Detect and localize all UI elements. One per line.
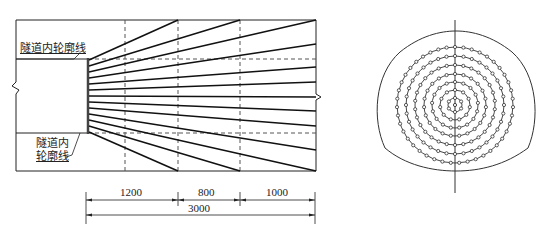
bolt-point <box>485 141 488 144</box>
bolt-point <box>470 57 473 60</box>
bolt-point <box>502 95 505 98</box>
bolt-point <box>396 97 399 100</box>
bolt-rings <box>395 45 514 164</box>
bolt-point <box>441 160 444 163</box>
bolt-point <box>415 60 418 63</box>
bolt-point <box>437 77 440 80</box>
bolt-point <box>466 132 469 135</box>
bolt-point <box>426 89 429 92</box>
bolt-point <box>429 61 432 64</box>
bolt-point <box>483 130 486 133</box>
bolt-point <box>407 87 410 90</box>
bolt-point <box>458 134 461 137</box>
bolt-point <box>470 77 473 80</box>
bolt-point <box>462 82 465 85</box>
bolt-point <box>478 146 481 149</box>
bolt-point <box>488 123 491 126</box>
bolt-point <box>449 126 452 129</box>
bolt-point <box>502 112 505 115</box>
bolt-point <box>466 123 469 126</box>
bolt-point <box>411 79 414 82</box>
upper-contour-label: 隧道内轮廓线 <box>20 42 86 55</box>
bolt-point <box>493 108 496 111</box>
bolt-point <box>510 89 513 92</box>
bolt-point <box>419 83 422 86</box>
bolt-8 <box>89 102 316 111</box>
bolt-point <box>445 91 448 94</box>
bolt-point <box>458 126 461 129</box>
bolt-point <box>425 154 428 157</box>
bolt-7 <box>89 96 316 97</box>
bolt-point <box>478 51 481 54</box>
bolt-lines <box>89 20 316 171</box>
bolt-point <box>453 72 456 75</box>
bolt-point <box>431 110 434 113</box>
bolt-point <box>404 103 407 106</box>
bolt-point <box>399 122 402 125</box>
bolt-point <box>435 117 438 120</box>
bolt-point <box>396 114 399 117</box>
bolt-point <box>428 121 431 124</box>
bolt-point <box>453 54 456 57</box>
bolt-point <box>405 112 408 115</box>
bolt-point <box>418 149 421 152</box>
bolt-point <box>437 67 440 70</box>
bolt-point <box>447 107 450 110</box>
dimension-800: 800 <box>198 186 215 198</box>
bolt-13 <box>89 132 178 171</box>
bolt-point <box>397 89 400 92</box>
bolt-point <box>488 83 491 86</box>
bolt-point <box>434 127 437 130</box>
dimension-1000: 1000 <box>266 186 288 198</box>
bolt-point <box>493 99 496 102</box>
bolt-point <box>476 101 479 104</box>
bolt-point <box>414 108 417 111</box>
left-break-line <box>12 20 19 171</box>
bolt-point <box>445 55 448 58</box>
bolt-point <box>502 103 505 106</box>
bolt-point <box>483 114 486 117</box>
bolt-point <box>462 152 465 155</box>
bolt-point <box>416 135 419 138</box>
bolt-point <box>470 140 473 143</box>
bolt-point <box>470 48 473 51</box>
bolt-point <box>481 89 484 92</box>
right-break-line <box>316 20 321 171</box>
bolt-5 <box>89 67 316 84</box>
bolt-point <box>470 149 473 152</box>
bolt-point <box>423 106 426 109</box>
bolt-point <box>422 66 425 69</box>
bolt-point <box>422 141 425 144</box>
bolt-point <box>411 128 414 131</box>
bolt-point <box>462 74 465 77</box>
cross-section <box>377 20 535 193</box>
bolt-point <box>478 61 481 64</box>
diagram-canvas <box>0 0 553 240</box>
bolt-point <box>491 116 494 119</box>
bolt-point <box>421 55 424 58</box>
bolt-point <box>442 113 445 116</box>
bolt-point <box>462 64 465 67</box>
bolt-6 <box>89 82 316 90</box>
dimension-3000: 3000 <box>188 202 210 214</box>
bolt-point <box>482 154 485 157</box>
bolt-point <box>501 137 504 140</box>
bolt-point <box>430 71 433 74</box>
bolt-point <box>467 97 470 100</box>
bolt-point <box>447 100 450 103</box>
bolt-point <box>405 95 408 98</box>
bolt-point <box>484 106 487 109</box>
bolt-point <box>441 123 444 126</box>
bolt-point <box>483 77 486 80</box>
bolt-point <box>402 130 405 133</box>
bolt-point <box>491 91 494 94</box>
bolt-point <box>485 66 488 69</box>
bolt-point <box>437 48 440 51</box>
bolt-point <box>462 91 465 94</box>
bolt-point <box>445 152 448 155</box>
bolt-point <box>489 149 492 152</box>
bolt-point <box>449 118 452 121</box>
bolt-4 <box>89 44 316 78</box>
bolt-point <box>462 143 465 146</box>
bolt-point <box>511 97 514 100</box>
